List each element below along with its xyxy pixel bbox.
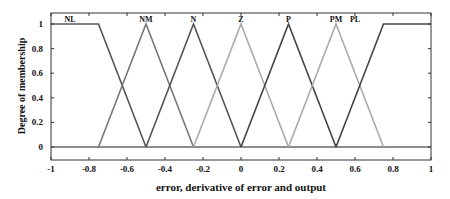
x-tick-label: 0.4 bbox=[311, 164, 323, 174]
mf-pm bbox=[289, 24, 384, 147]
y-tick-label: 0.8 bbox=[32, 44, 44, 54]
label-pl: PL bbox=[350, 15, 360, 24]
label-n: N bbox=[191, 15, 197, 24]
mf-n bbox=[146, 24, 241, 147]
mf-nl bbox=[51, 24, 146, 147]
mf-z bbox=[194, 24, 289, 147]
x-tick-label: -0.2 bbox=[196, 164, 211, 174]
mf-pl bbox=[336, 24, 431, 147]
mf-p bbox=[241, 24, 336, 147]
x-tick-label: 1 bbox=[429, 164, 434, 174]
series-labels: NLNMNZPPMPL bbox=[64, 15, 360, 24]
x-tick-label: -0.4 bbox=[158, 164, 173, 174]
x-tick-label: 0.6 bbox=[349, 164, 361, 174]
label-nm: NM bbox=[139, 15, 153, 24]
membership-function-chart: NLNMNZPPMPL -1-0.8-0.6-0.4-0.200.20.40.6… bbox=[0, 0, 450, 199]
label-z: Z bbox=[238, 15, 243, 24]
y-tick-label: 1 bbox=[39, 19, 44, 29]
mf-nm bbox=[99, 24, 194, 147]
y-tick-label: 0.6 bbox=[32, 68, 44, 78]
x-tick-label: 0.8 bbox=[387, 164, 399, 174]
x-tick-label: -1 bbox=[47, 164, 55, 174]
membership-lines bbox=[51, 24, 431, 147]
label-p: P bbox=[286, 15, 291, 24]
y-axis-label: Degree of membership bbox=[16, 37, 27, 134]
label-pm: PM bbox=[330, 15, 343, 24]
x-axis-label: error, derivative of error and output bbox=[156, 181, 326, 193]
x-tick-label: -0.8 bbox=[82, 164, 97, 174]
axis-ticks: -1-0.8-0.6-0.4-0.200.20.40.60.8100.20.40… bbox=[32, 13, 434, 174]
x-tick-label: 0 bbox=[239, 164, 244, 174]
plot-frame bbox=[51, 13, 431, 160]
y-tick-label: 0.2 bbox=[32, 117, 44, 127]
y-tick-label: 0.4 bbox=[32, 93, 44, 103]
y-tick-label: 0 bbox=[39, 142, 44, 152]
label-nl: NL bbox=[64, 15, 75, 24]
axes-box bbox=[51, 13, 431, 160]
x-tick-label: -0.6 bbox=[120, 164, 135, 174]
x-tick-label: 0.2 bbox=[273, 164, 285, 174]
